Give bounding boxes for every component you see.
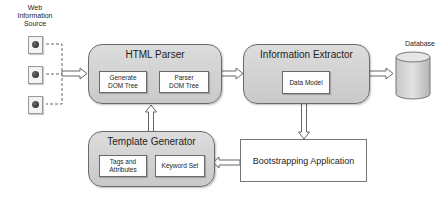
keyword-set-box: Keyword Set: [155, 155, 205, 177]
tags-and-attributes-box: Tags and Attributes: [99, 155, 147, 177]
box-label-line: Tags and: [109, 158, 136, 166]
template-generator-title: Template Generator: [89, 136, 214, 147]
box-label-line: Attributes: [109, 166, 136, 174]
bootstrapping-application-label: Bootstrapping Application: [253, 156, 355, 166]
template-generator-box: Template Generator Tags and Attributes K…: [88, 131, 215, 187]
box-label: Keyword Set: [162, 162, 199, 170]
database-cylinder-icon: [0, 0, 447, 203]
bootstrapping-application-box: Bootstrapping Application: [240, 139, 367, 182]
